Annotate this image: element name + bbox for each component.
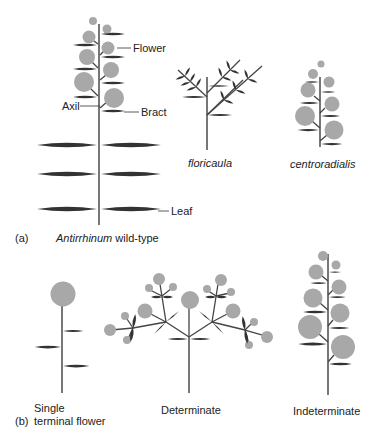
determinate-plant bbox=[104, 273, 273, 393]
determinate-label: Determinate bbox=[161, 404, 221, 416]
indeterminate-label: Indeterminate bbox=[293, 405, 360, 417]
floricaula-label: floricaula bbox=[188, 157, 232, 169]
floricaula-plant bbox=[175, 60, 262, 150]
axil-callout: Axil bbox=[62, 100, 80, 112]
panel-b-label: (b) bbox=[15, 415, 28, 427]
indeterminate-plant bbox=[298, 251, 355, 395]
single-terminal-flower-plant bbox=[35, 282, 90, 394]
panel-a-caption: Antirrhinum wild-type bbox=[55, 232, 159, 244]
bract-callout: Bract bbox=[141, 106, 167, 118]
inflorescence-diagram: Flower Axil Bract Leaf (a) Antirrhinum w… bbox=[0, 0, 372, 439]
single-label-line1: Single bbox=[34, 402, 65, 414]
leaf-callout: Leaf bbox=[171, 205, 193, 217]
flower-callout: Flower bbox=[133, 42, 166, 54]
wild-type-plant: Flower Axil Bract Leaf bbox=[37, 17, 193, 225]
centroradialis-plant bbox=[295, 61, 344, 148]
single-label-line2: terminal flower bbox=[34, 415, 106, 427]
panel-a-label: (a) bbox=[15, 232, 28, 244]
centroradialis-label: centroradialis bbox=[290, 158, 356, 170]
